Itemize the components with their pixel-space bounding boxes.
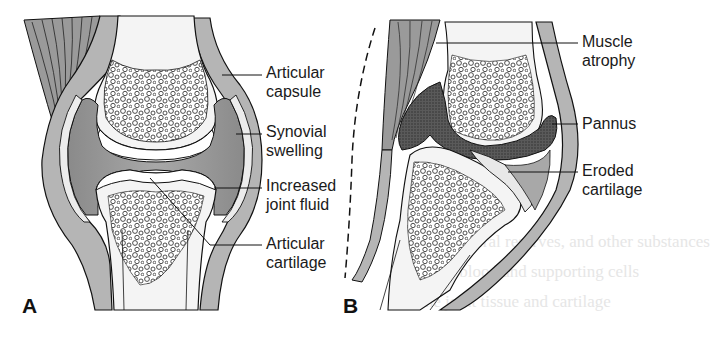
callout-muscle-atrophy: Muscle atrophy xyxy=(582,32,635,70)
callout-pannus: Pannus xyxy=(582,114,636,133)
callout-articular-capsule: Articular capsule xyxy=(266,63,325,101)
panel-b-drawing xyxy=(345,20,578,310)
panel-label-b: B xyxy=(343,294,358,318)
callout-articular-cartilage: Articular cartilage xyxy=(266,234,326,272)
callout-synovial-swelling: Synovial swelling xyxy=(266,122,326,160)
callout-increased-joint-fluid: Increased joint fluid xyxy=(266,176,336,214)
callout-eroded-cartilage: Eroded cartilage xyxy=(582,161,642,199)
panel-a-drawing xyxy=(24,16,262,310)
panel-label-a: A xyxy=(22,294,37,318)
